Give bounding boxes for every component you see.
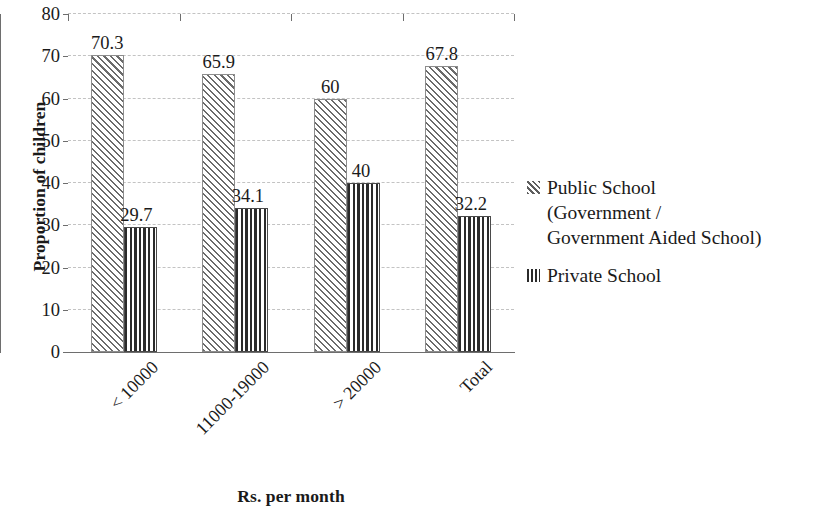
- x-axis-tick-mark: [514, 14, 515, 21]
- bar-group: 70.329.7: [68, 14, 180, 352]
- x-axis-line: [68, 352, 515, 353]
- bar-value-label: 70.3: [91, 33, 123, 54]
- bar-value-label: 40: [352, 161, 371, 182]
- bar-value-label: 60: [321, 77, 340, 98]
- y-axis-tick-label: 80: [42, 4, 61, 25]
- bar-private-school[interactable]: 32.2: [458, 216, 491, 352]
- legend-label-public-school: Public School (Government / Government A…: [547, 175, 761, 250]
- bar-value-label: 65.9: [203, 52, 235, 73]
- bar-value-label: 32.2: [455, 194, 487, 215]
- x-axis-category-label-text: Total: [456, 357, 497, 398]
- bar-public-school[interactable]: 65.9: [202, 74, 235, 352]
- bar-chart: Proportion of children 01020304050607080…: [0, 0, 830, 519]
- y-axis-tick-label: 10: [42, 299, 61, 320]
- legend-swatch-private-school-icon: [527, 269, 540, 282]
- bar-group: 65.934.1: [180, 14, 292, 352]
- y-axis-tick-label: 20: [42, 257, 61, 278]
- legend-label-public-school-line2: (Government /: [547, 202, 661, 223]
- y-axis-tick-label: 60: [42, 88, 61, 109]
- bar-public-school[interactable]: 67.8: [425, 66, 458, 352]
- legend-entry-private-school: Private School: [527, 263, 827, 288]
- y-axis-tick-label: 40: [42, 173, 61, 194]
- chart-legend: Public School (Government / Government A…: [527, 175, 827, 301]
- x-axis-category-label-text: 11000-19000: [192, 357, 274, 439]
- legend-swatch-public-school-icon: [527, 181, 540, 194]
- legend-entry-public-school: Public School (Government / Government A…: [527, 175, 827, 250]
- bar-private-school[interactable]: 40: [347, 183, 380, 352]
- x-axis-category-label-text: > 20000: [329, 357, 386, 414]
- bar-public-school[interactable]: 70.3: [91, 55, 124, 352]
- x-axis-category-label-text: < 10000: [106, 357, 163, 414]
- y-axis-tick-label: 30: [42, 215, 61, 236]
- y-axis-tick-label: 50: [42, 130, 61, 151]
- y-axis-tick-label: 0: [51, 342, 60, 363]
- legend-label-public-school-line1: Public School: [547, 177, 656, 198]
- bar-value-label: 67.8: [426, 44, 458, 65]
- bar-private-school[interactable]: 29.7: [124, 227, 157, 352]
- bar-group: 6040: [291, 14, 403, 352]
- y-axis-line: [0, 14, 1, 353]
- plot-area: 01020304050607080 70.329.765.934.1604067…: [68, 14, 514, 352]
- bar-public-school[interactable]: 60: [314, 99, 347, 353]
- legend-label-public-school-line3: Government Aided School): [547, 227, 761, 248]
- x-axis-title: Rs. per month: [68, 486, 514, 507]
- bar-value-label: 34.1: [232, 186, 264, 207]
- legend-label-private-school: Private School: [547, 263, 661, 288]
- bar-value-label: 29.7: [120, 205, 152, 226]
- y-axis-tick-mark: [63, 352, 68, 353]
- bar-group: 67.832.2: [403, 14, 515, 352]
- y-axis-tick-label: 70: [42, 46, 61, 67]
- bar-private-school[interactable]: 34.1: [235, 208, 268, 352]
